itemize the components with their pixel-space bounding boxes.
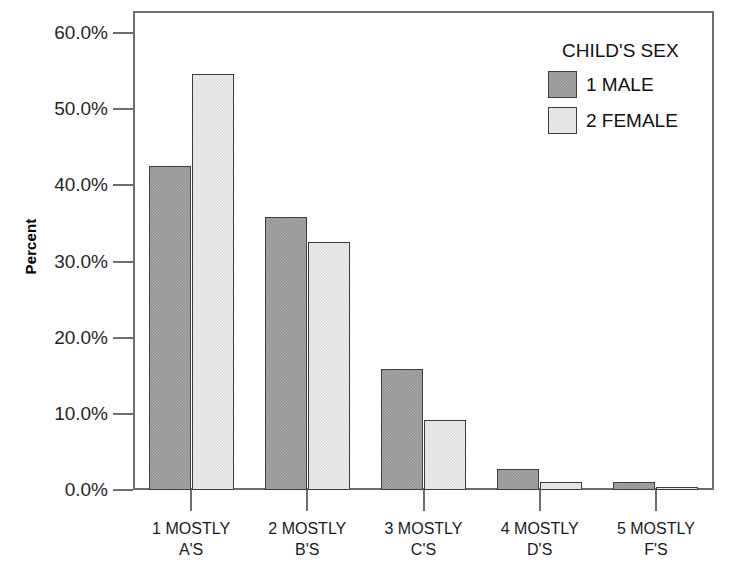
x-axis-tick xyxy=(423,490,425,511)
bar-male xyxy=(265,217,307,490)
bar-female xyxy=(192,74,234,490)
y-axis-tick xyxy=(113,261,133,263)
y-axis-tick xyxy=(113,32,133,34)
y-axis-tick-label: 40.0% xyxy=(16,175,108,194)
x-axis-tick xyxy=(190,490,192,511)
y-axis-tick xyxy=(113,184,133,186)
y-axis-tick-label: 0.0% xyxy=(16,480,108,499)
y-axis-tick-label: 20.0% xyxy=(16,328,108,347)
x-axis-tick xyxy=(306,490,308,511)
x-axis-tick-label: 5 MOSTLYF'S xyxy=(581,518,731,560)
x-axis-tick-label-line: 5 MOSTLY xyxy=(581,518,731,539)
y-axis-tick xyxy=(113,489,133,491)
y-axis-tick xyxy=(113,108,133,110)
legend-label-male: 1 MALE xyxy=(586,74,654,96)
legend-item-female[interactable]: 2 FEMALE xyxy=(548,107,718,134)
bar-male xyxy=(149,166,191,490)
y-axis-tick-label: 60.0% xyxy=(16,23,108,42)
legend-label-female: 2 FEMALE xyxy=(586,110,678,132)
x-axis-tick-label-line: F'S xyxy=(581,539,731,560)
y-axis-tick-label: 10.0% xyxy=(16,404,108,423)
legend-swatch-male-icon xyxy=(548,71,577,98)
bar-male xyxy=(381,369,423,490)
x-axis-tick xyxy=(539,490,541,511)
bar-female xyxy=(308,242,350,490)
bar-male xyxy=(497,469,539,490)
legend-item-male[interactable]: 1 MALE xyxy=(548,71,718,98)
bar-female xyxy=(540,482,582,490)
y-axis-title: Percent xyxy=(22,197,39,297)
legend-title: CHILD'S SEX xyxy=(562,40,718,62)
bar-female xyxy=(424,420,466,490)
bar-female xyxy=(656,487,698,490)
y-axis-tick xyxy=(113,337,133,339)
y-axis-tick-label: 50.0% xyxy=(16,99,108,118)
x-axis-tick xyxy=(655,490,657,511)
y-axis-tick xyxy=(113,413,133,415)
bar-male xyxy=(613,482,655,490)
chart-legend: CHILD'S SEX 1 MALE 2 FEMALE xyxy=(548,40,718,134)
y-axis-tick-label: 30.0% xyxy=(16,252,108,271)
bar-chart-figure: Percent 0.0%10.0%20.0%30.0%40.0%50.0%60.… xyxy=(0,0,731,581)
legend-swatch-female-icon xyxy=(548,107,577,134)
